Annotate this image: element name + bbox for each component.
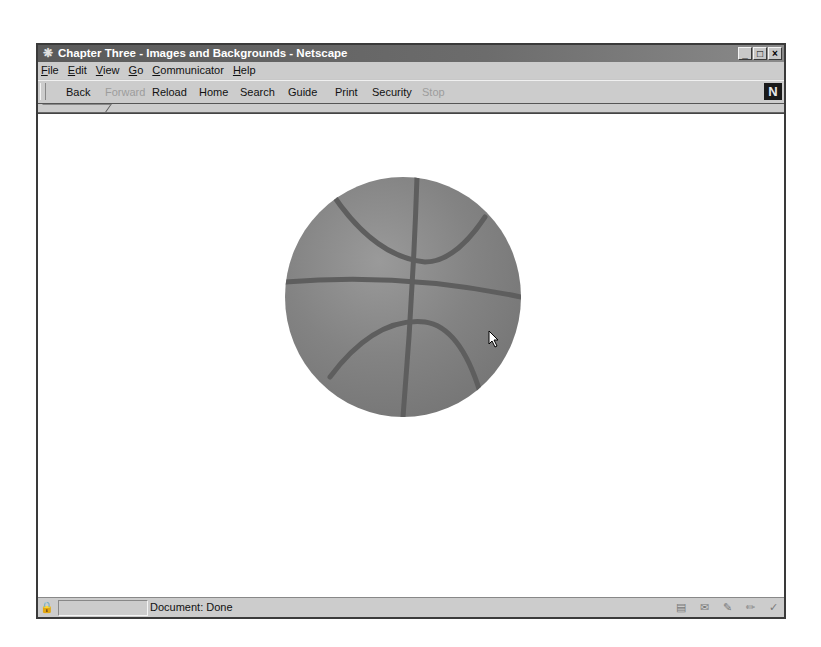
component-bar: ▤ ✉ ✎ ✏ ✓ [676, 598, 778, 617]
menu-accel: H [233, 64, 241, 76]
menu-label: dit [75, 64, 87, 76]
netscape-logo-icon[interactable]: N [764, 83, 782, 100]
search-button[interactable]: Search [240, 81, 275, 103]
composer-icon[interactable]: ✏ [746, 598, 755, 617]
menu-accel: V [96, 64, 103, 76]
close-button[interactable]: × [768, 47, 782, 60]
basketball-image [285, 177, 521, 417]
page-content [38, 113, 784, 597]
forward-button[interactable]: Forward [105, 81, 145, 103]
toolbar-grip-handle[interactable] [40, 83, 46, 100]
menu-label: ommunicator [160, 64, 224, 76]
collapsed-toolbar-tabs[interactable] [38, 104, 784, 113]
menu-go[interactable]: Go [129, 62, 144, 79]
status-text: Document: Done [150, 598, 233, 617]
menu-help[interactable]: Help [233, 62, 256, 79]
netscape-app-icon[interactable]: ❋ [41, 47, 54, 60]
menu-label: ile [48, 64, 59, 76]
status-bar: 🔒 Document: Done ▤ ✉ ✎ ✏ ✓ [38, 597, 784, 617]
menu-view[interactable]: View [96, 62, 120, 79]
print-button[interactable]: Print [335, 81, 358, 103]
window-controls: _ □ × [738, 47, 782, 60]
mail-icon[interactable]: ✉ [700, 598, 709, 617]
menu-edit[interactable]: Edit [68, 62, 87, 79]
guide-button[interactable]: Guide [288, 81, 317, 103]
navigator-icon[interactable]: ▤ [676, 598, 686, 617]
discussion-icon[interactable]: ✎ [723, 598, 732, 617]
reload-button[interactable]: Reload [152, 81, 187, 103]
stop-button[interactable]: Stop [422, 81, 445, 103]
browser-window: ❋ Chapter Three - Images and Backgrounds… [36, 43, 786, 619]
title-bar[interactable]: ❋ Chapter Three - Images and Backgrounds… [38, 45, 784, 62]
progress-bar [58, 600, 148, 616]
conference-icon[interactable]: ✓ [769, 598, 778, 617]
menu-accel: G [129, 64, 138, 76]
menu-label: o [137, 64, 143, 76]
toolbar-tab-handles[interactable] [37, 104, 112, 112]
window-title: Chapter Three - Images and Backgrounds -… [58, 45, 348, 62]
security-lock-icon[interactable]: 🔒 [40, 601, 54, 614]
home-button[interactable]: Home [199, 81, 228, 103]
navigation-toolbar: Back Forward Reload Home Search Guide Pr… [38, 80, 784, 105]
menu-bar: File Edit View Go Communicator Help [38, 62, 784, 79]
minimize-button[interactable]: _ [738, 47, 752, 60]
mouse-pointer-icon [488, 330, 500, 348]
menu-label: elp [241, 64, 256, 76]
security-button[interactable]: Security [372, 81, 412, 103]
menu-communicator[interactable]: Communicator [152, 62, 224, 79]
basketball-seams-icon [285, 177, 521, 417]
back-button[interactable]: Back [66, 81, 90, 103]
menu-label: iew [103, 64, 120, 76]
menu-accel: F [41, 64, 48, 76]
menu-file[interactable]: File [41, 62, 59, 79]
maximize-button[interactable]: □ [753, 47, 767, 60]
